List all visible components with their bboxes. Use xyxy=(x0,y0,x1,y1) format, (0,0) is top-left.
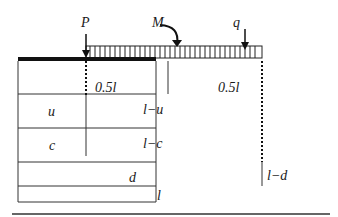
distributed-load-arrow xyxy=(241,29,249,50)
row3-right: l−c xyxy=(143,136,163,151)
row1-right: 0.5l xyxy=(218,80,240,95)
row2-right: l−u xyxy=(143,102,163,117)
row5-full: l xyxy=(157,188,161,203)
beam-diagram: P M q 0.5l 0.5l u l−u c l−c d l−d l xyxy=(0,0,338,217)
row3-left: c xyxy=(49,138,56,153)
row4-left: d xyxy=(129,170,137,185)
row4-right: l−d xyxy=(267,168,288,183)
row1-left: 0.5l xyxy=(95,80,117,95)
row2-left: u xyxy=(48,104,55,119)
label-M: M xyxy=(151,15,165,30)
label-q: q xyxy=(233,15,240,30)
label-P: P xyxy=(80,15,90,30)
distributed-load xyxy=(86,46,262,58)
